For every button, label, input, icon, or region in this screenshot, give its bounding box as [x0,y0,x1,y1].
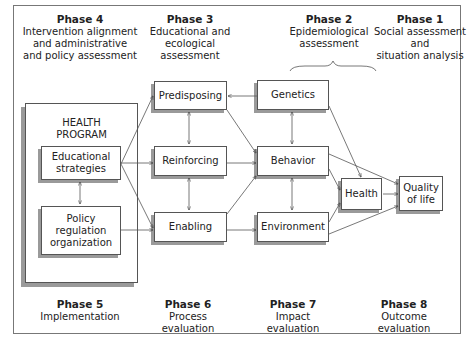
phase-2-description: Epidemiological assessment [284,26,374,50]
phase-7-label: Phase 7 Impact evaluation [255,298,331,335]
phase-3-description: Educational and ecological assessment [142,26,238,62]
phase-2-title: Phase 2 [284,13,374,25]
health-program-title: HEALTH PROGRAM [26,117,137,141]
environment-box: Environment [257,212,329,242]
genetics-box: Genetics [257,80,329,110]
phase-5-title: Phase 5 [30,298,130,310]
phase-8-title: Phase 8 [366,298,442,310]
enabling-box: Enabling [154,212,227,242]
phase-7-description: Impact evaluation [255,311,331,335]
phase-4-description: Intervention alignment and administrativ… [18,26,142,62]
phase-6-label: Phase 6 Process evaluation [150,298,226,335]
reinforcing-box: Reinforcing [154,146,227,176]
policy-regulation-organization-box: Policy regulation organization [41,206,121,255]
phase-7-title: Phase 7 [255,298,331,310]
phase-3-title: Phase 3 [142,13,238,25]
phase-2-label: Phase 2 Epidemiological assessment [284,13,374,50]
behavior-box: Behavior [257,146,329,176]
educational-strategies-box: Educational strategies [41,146,121,180]
phase-1-description: Social assessment and situation analysis [372,26,468,62]
phase-5-description: Implementation [30,311,130,323]
phase-6-title: Phase 6 [150,298,226,310]
phase-5-label: Phase 5 Implementation [30,298,130,323]
predisposing-box: Predisposing [154,81,227,110]
quality-of-life-box: Quality of life [399,176,443,211]
phase-3-label: Phase 3 Educational and ecological asses… [142,13,238,62]
health-program-box: HEALTH PROGRAM [25,103,138,283]
phase-6-description: Process evaluation [150,311,226,335]
phase-8-label: Phase 8 Outcome evaluation [366,298,442,335]
phase-8-description: Outcome evaluation [366,311,442,335]
health-box: Health [341,178,382,210]
phase-4-label: Phase 4 Intervention alignment and admin… [18,13,142,62]
phase-1-label: Phase 1 Social assessment and situation … [372,13,468,62]
phase-1-title: Phase 1 [372,13,468,25]
phase-4-title: Phase 4 [18,13,142,25]
